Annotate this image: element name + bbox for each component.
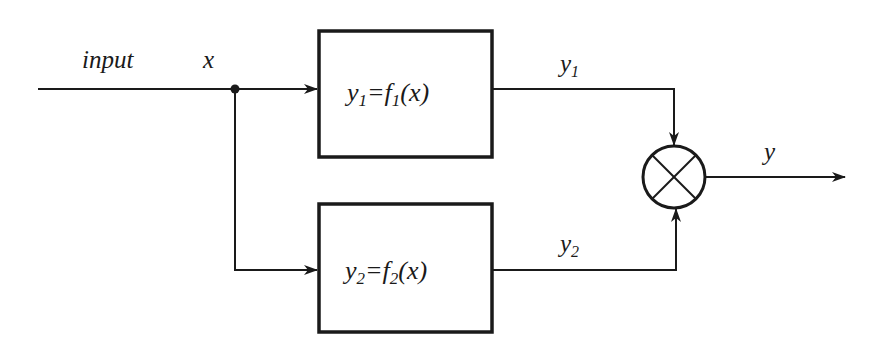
y1-label: y1 [557, 50, 579, 80]
block-f1-equation: y1=f1(x) [344, 78, 429, 110]
y2-signal-line [493, 209, 676, 270]
y2-label: y2 [557, 230, 579, 260]
block-f2-equation: y2=f2(x) [342, 256, 427, 288]
block-diagram: input x y1 y2 y y1=f1(x) y2=f2(x) [0, 0, 875, 349]
input-label: input [82, 46, 134, 73]
output-y-label: y [761, 138, 776, 165]
branch-signal-line [235, 89, 317, 270]
x-label: x [202, 46, 214, 73]
multiplier-combiner-icon [643, 146, 705, 208]
y1-signal-line [493, 89, 674, 145]
